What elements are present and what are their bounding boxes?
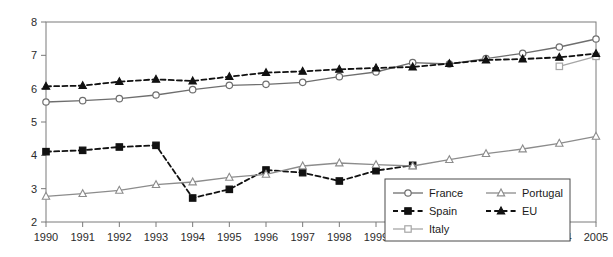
data-point <box>226 186 232 192</box>
x-axis-tick-label: 1991 <box>70 231 94 243</box>
data-point <box>336 159 343 166</box>
y-axis-tick-label: 7 <box>31 49 37 61</box>
data-point <box>153 92 159 98</box>
y-axis-tick-label: 4 <box>31 149 37 161</box>
data-point <box>116 95 122 101</box>
legend-label: Italy <box>429 223 450 235</box>
y-axis-tick-label: 2 <box>31 216 37 228</box>
legend-marker <box>405 226 411 232</box>
data-point <box>373 167 379 173</box>
data-point <box>336 178 342 184</box>
data-point <box>556 63 562 69</box>
data-point <box>263 81 269 87</box>
y-axis-tick-label: 5 <box>31 116 37 128</box>
data-point <box>43 99 49 105</box>
data-point <box>116 144 122 150</box>
data-point <box>592 132 599 139</box>
data-point <box>43 148 49 154</box>
legend-marker <box>405 190 411 196</box>
data-point <box>79 97 85 103</box>
series-eu <box>42 50 599 90</box>
legend-label: Portugal <box>522 187 563 199</box>
data-point <box>153 142 159 148</box>
line-chart: 2345678199019911992199319941995199619971… <box>0 0 613 257</box>
data-point <box>336 73 342 79</box>
data-point <box>556 44 562 50</box>
x-axis-tick-label: 1994 <box>180 231 204 243</box>
data-point <box>226 82 232 88</box>
y-axis-tick-label: 8 <box>31 16 37 28</box>
series-line <box>559 56 596 66</box>
series-line <box>46 54 596 87</box>
y-axis-tick-label: 6 <box>31 83 37 95</box>
data-point <box>299 79 305 85</box>
data-point <box>593 36 599 42</box>
legend-label: France <box>429 187 463 199</box>
data-point <box>299 169 305 175</box>
x-axis-tick-label: 1993 <box>144 231 168 243</box>
legend-label: Spain <box>429 205 457 217</box>
x-axis-tick-label: 1997 <box>290 231 314 243</box>
data-point <box>189 86 195 92</box>
x-axis-tick-label: 1998 <box>327 231 351 243</box>
legend-marker <box>405 208 411 214</box>
x-axis-tick-label: 1996 <box>254 231 278 243</box>
legend-label: EU <box>522 205 537 217</box>
data-point <box>79 147 85 153</box>
x-axis-tick-label: 2005 <box>584 231 608 243</box>
x-axis-tick-label: 1992 <box>107 231 131 243</box>
data-point <box>189 195 195 201</box>
legend: FrancePortugalSpainEUItaly <box>385 179 570 241</box>
x-axis-tick-label: 1995 <box>217 231 241 243</box>
x-axis-tick-label: 1990 <box>34 231 58 243</box>
chart-canvas: 2345678199019911992199319941995199619971… <box>0 0 613 257</box>
y-axis-tick-label: 3 <box>31 183 37 195</box>
